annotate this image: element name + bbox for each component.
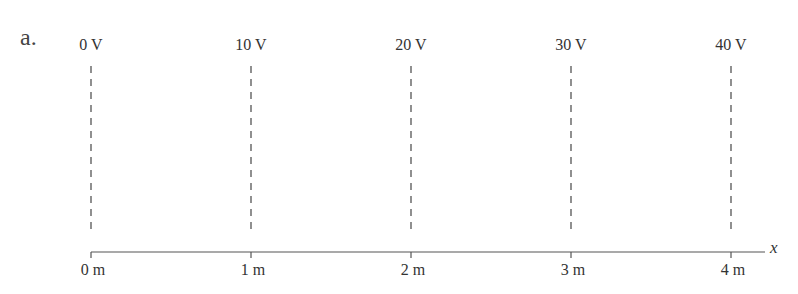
axis-tick-label-3: 3 m <box>561 261 585 279</box>
equipotential-lines <box>91 66 731 234</box>
x-axis-name: x <box>770 238 778 258</box>
axis-tick-label-4: 4 m <box>721 261 745 279</box>
axis-tick-label-1: 1 m <box>241 261 265 279</box>
diagram-graphics <box>0 0 798 294</box>
axis-ticks <box>91 252 731 258</box>
axis-tick-label-0: 0 m <box>81 261 105 279</box>
axis-tick-label-2: 2 m <box>401 261 425 279</box>
